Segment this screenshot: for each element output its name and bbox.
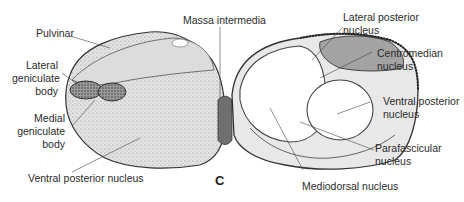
label-lateral-geniculate-body: Lateral geniculate body [12, 59, 58, 98]
label-ventral-posterior-nucleus-left: Ventral posterior nucleus [28, 172, 144, 185]
label-pulvinar: Pulvinar [36, 27, 74, 40]
cropped-caption: … [0, 196, 464, 202]
label-massa-intermedia: Massa intermedia [183, 14, 266, 27]
panel-letter: C [215, 173, 224, 188]
label-parafascicular-nucleus: Parafascicular nucleus [375, 142, 442, 168]
label-line: Lateral posterior [343, 11, 419, 24]
label-mediodorsal-nucleus: Mediodorsal nucleus [302, 180, 398, 193]
label-line: geniculate [12, 72, 58, 85]
thalamus-diagram: Pulvinar Lateral geniculate body Medial … [0, 0, 464, 202]
label-line: Ventral posterior [383, 95, 459, 108]
label-line: nucleus [377, 60, 443, 73]
label-line: Medial [12, 112, 65, 125]
label-ventral-posterior-nucleus-right: Ventral posterior nucleus [383, 95, 459, 121]
label-medial-geniculate-body: Medial geniculate body [12, 112, 65, 151]
label-line: nucleus [375, 155, 442, 168]
label-line: body [12, 85, 58, 98]
label-centromedian-nucleus: Centromedian nucleus [377, 47, 443, 73]
label-line: nucleus [343, 24, 419, 37]
left-thalamus [66, 32, 226, 168]
label-line: nucleus [383, 108, 459, 121]
label-line: Parafascicular [375, 142, 442, 155]
label-line: Centromedian [377, 47, 443, 60]
label-line: geniculate [12, 125, 65, 138]
label-line: body [12, 138, 65, 151]
label-lateral-posterior-nucleus: Lateral posterior nucleus [343, 11, 419, 37]
massa-intermedia-shape [218, 96, 232, 144]
label-line: Lateral [12, 59, 58, 72]
